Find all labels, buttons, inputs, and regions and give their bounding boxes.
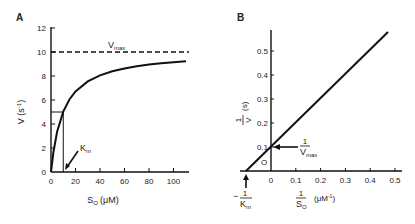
a-x-tick-labels: 0 20 40 60 80 100: [49, 177, 181, 186]
svg-text:2: 2: [42, 144, 47, 153]
svg-text:6: 6: [42, 96, 47, 105]
b-y-axis-label: 1 V (s): [234, 101, 253, 125]
svg-text:V: V: [244, 117, 253, 123]
svg-text:1: 1: [243, 189, 248, 198]
svg-text:40: 40: [96, 177, 105, 186]
svg-text:0.3: 0.3: [257, 95, 269, 104]
svg-text:0.2: 0.2: [315, 176, 327, 185]
svg-text:Vmax: Vmax: [300, 147, 317, 158]
a-vmax-label: Vmax: [108, 40, 125, 51]
svg-text:(s): (s): [240, 101, 249, 111]
svg-text:12: 12: [37, 24, 46, 33]
a-x-axis-label: SO(μM): [87, 195, 118, 206]
b-x-tick-labels: 0 0.1 0.2 0.3 0.4 0.5: [269, 176, 401, 185]
a-y-tick-labels: 0 2 4 6 8 10 12: [37, 24, 46, 177]
svg-text:0.4: 0.4: [257, 71, 269, 80]
svg-text:0.4: 0.4: [365, 176, 377, 185]
svg-text:1: 1: [234, 117, 243, 122]
panel-a: A 0 2 4 6 8 10 12: [16, 12, 189, 206]
svg-text:0.5: 0.5: [257, 47, 269, 56]
svg-text:100: 100: [167, 177, 181, 186]
b-km-label: − 1 Km: [233, 189, 252, 210]
a-mm-curve: [51, 61, 186, 172]
svg-text:80: 80: [145, 177, 154, 186]
svg-text:0.1: 0.1: [290, 176, 302, 185]
b-y-tick-labels: 0.1 0.2 0.3 0.4 0.5: [257, 47, 269, 152]
panel-b: B 0.1 0.2 0.3 0.4 0.5 O 0: [233, 12, 402, 210]
svg-text:0: 0: [269, 176, 274, 185]
b-x-axis-label: 1 SO (μM-1): [296, 189, 335, 210]
panel-a-label: A: [16, 12, 23, 23]
svg-text:8: 8: [42, 72, 47, 81]
svg-text:20: 20: [71, 177, 80, 186]
panel-b-label: B: [237, 12, 244, 23]
a-km-arrow: [67, 151, 78, 167]
svg-text:10: 10: [37, 48, 46, 57]
svg-text:1: 1: [303, 137, 308, 146]
svg-text:0: 0: [49, 177, 54, 186]
svg-text:4: 4: [42, 120, 47, 129]
svg-text:(μM-1): (μM-1): [314, 193, 335, 203]
svg-text:0.3: 0.3: [340, 176, 352, 185]
svg-text:0.5: 0.5: [389, 176, 401, 185]
b-origin-label: O: [261, 158, 267, 167]
svg-text:0: 0: [42, 168, 47, 177]
svg-text:0.2: 0.2: [257, 119, 269, 128]
b-vmax-label: 1 Vmax: [300, 137, 317, 158]
a-y-axis-label: V (s-1): [16, 100, 26, 124]
a-km-label: Km: [80, 143, 91, 154]
svg-text:Km: Km: [240, 199, 251, 210]
svg-text:60: 60: [120, 177, 129, 186]
svg-text:SO: SO: [296, 199, 307, 210]
svg-text:1: 1: [299, 189, 304, 198]
kinetics-figure: A 0 2 4 6 8 10 12: [0, 0, 415, 224]
svg-text:−: −: [233, 191, 238, 201]
b-km-arrowhead: [243, 174, 249, 180]
